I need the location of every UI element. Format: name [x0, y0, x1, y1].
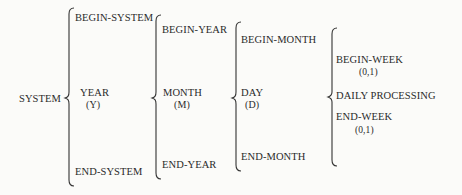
level4-begin-cardinality: (0,1) [359, 68, 378, 78]
level1-begin-label: BEGIN-SYSTEM [75, 13, 153, 24]
level2-begin-label: BEGIN-YEAR [162, 25, 227, 36]
level2-middle-label: MONTH [163, 88, 202, 99]
level4-end-cardinality: (0,1) [355, 126, 374, 136]
left-brace-icon [65, 8, 74, 186]
level2-end-label: END-YEAR [162, 160, 216, 171]
level3-middle-label: DAY [241, 88, 263, 99]
warnier-orr-diagram: SYSTEM BEGIN-SYSTEM YEAR (Y) END-SYSTEM … [0, 0, 462, 195]
level1-middle-label: YEAR [80, 88, 109, 99]
level3-begin-label: BEGIN-MONTH [241, 35, 316, 46]
level3-middle-abbrev: (D) [245, 100, 259, 110]
level1-middle-abbrev: (Y) [86, 100, 100, 110]
level2-middle-abbrev: (M) [174, 100, 190, 110]
left-brace-icon [232, 22, 241, 171]
level1-end-label: END-SYSTEM [75, 167, 143, 178]
level4-middle-label: DAILY PROCESSING [336, 91, 436, 102]
level4-begin-label: BEGIN-WEEK [336, 55, 403, 66]
level4-end-label: END-WEEK [336, 112, 392, 123]
root-label: SYSTEM [19, 94, 61, 105]
level3-end-label: END-MONTH [241, 152, 305, 163]
left-brace-icon [152, 15, 161, 179]
